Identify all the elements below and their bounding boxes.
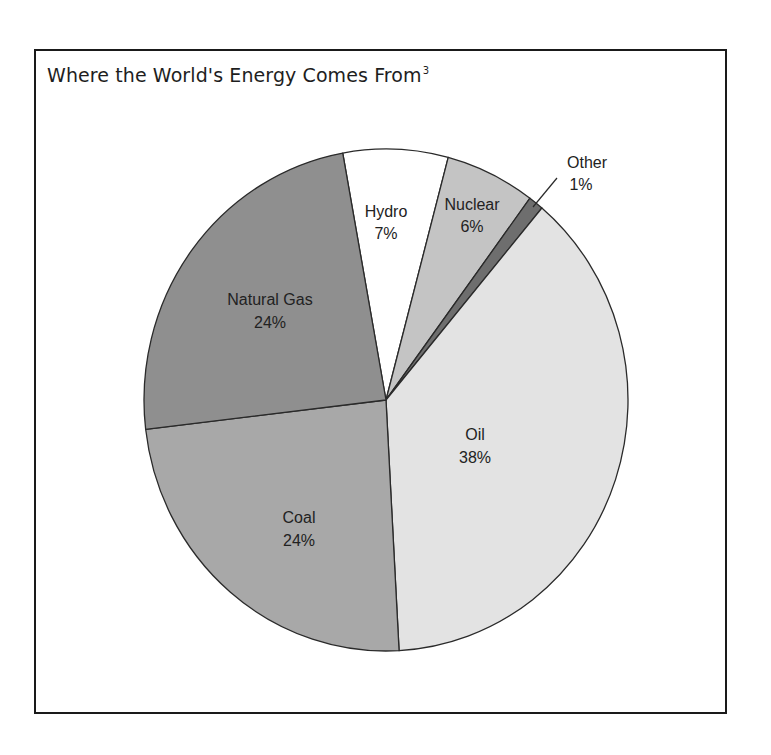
label-natural-gas-pct: 24%	[254, 314, 286, 331]
label-nuclear-pct: 6%	[460, 218, 483, 235]
other-leader-line	[533, 178, 557, 207]
pie-chart: Hydro 7% Nuclear 6% Other 1% Oil 38% Coa…	[0, 0, 771, 755]
label-coal-pct: 24%	[283, 532, 315, 549]
pie-slice-coal	[146, 400, 399, 651]
label-hydro-name: Hydro	[365, 203, 408, 220]
label-natural-gas-name: Natural Gas	[227, 291, 312, 308]
label-oil-pct: 38%	[459, 449, 491, 466]
label-coal-name: Coal	[283, 509, 316, 526]
label-oil-name: Oil	[465, 426, 485, 443]
label-nuclear-name: Nuclear	[444, 196, 500, 213]
label-other-name: Other	[567, 154, 608, 171]
label-hydro-pct: 7%	[374, 225, 397, 242]
label-other-pct: 1%	[569, 176, 592, 193]
